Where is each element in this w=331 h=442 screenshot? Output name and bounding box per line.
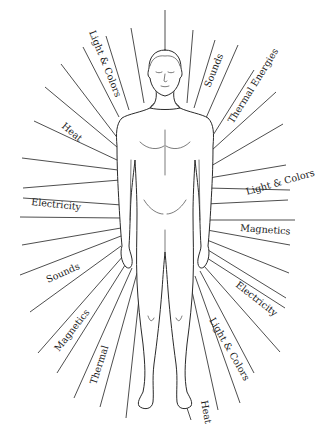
label-thermal-bottom: Thermal (87, 344, 110, 386)
human-figure (117, 50, 214, 409)
label-heat-bottom: Heat (199, 399, 214, 424)
label-electricity-right: Electricity (234, 279, 281, 319)
label-light-colors-bottom-right: Light & Colors (207, 316, 252, 383)
label-sounds-left: Sounds (44, 260, 81, 285)
label-electricity-left: Electricity (31, 196, 82, 212)
label-heat-left: Heat (60, 120, 85, 144)
label-light-colors-top-left: Light & Colors (87, 29, 124, 99)
label-magnetics-right: Magnetics (240, 222, 291, 236)
head (148, 50, 182, 96)
body-energy-diagram: Light & Colors Sounds Thermal Energies H… (0, 0, 331, 442)
label-light-colors-right: Light & Colors (245, 167, 316, 197)
